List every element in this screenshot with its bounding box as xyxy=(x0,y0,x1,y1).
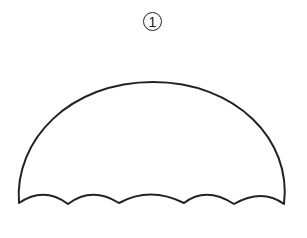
umbrella-canopy-icon xyxy=(0,0,307,238)
